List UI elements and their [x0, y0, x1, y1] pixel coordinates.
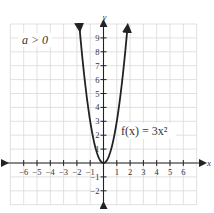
y-tick-label: −2: [90, 186, 99, 196]
y-tick-label: 8: [95, 47, 99, 57]
x-tick-label: 1: [115, 167, 119, 177]
axes: [5, 23, 203, 205]
y-tick-label: 9: [95, 33, 99, 43]
y-tick-label: 3: [95, 116, 99, 126]
function-label: f(x) = 3x²: [121, 124, 168, 138]
y-tick-label: 2: [95, 130, 99, 140]
y-tick-label: 6: [95, 75, 99, 85]
y-tick-label: 5: [95, 89, 99, 99]
parabola-chart: −6−5−4−3−2−1123456−2−1123456789 a > 0 f(…: [0, 0, 214, 213]
y-axis-label: y: [102, 12, 107, 22]
axis-ticks: −6−5−4−3−2−1123456−2−1123456789: [19, 33, 185, 196]
y-tick-label: 7: [95, 61, 99, 71]
y-tick-label: −1: [90, 172, 99, 182]
x-tick-label: −3: [59, 167, 68, 177]
x-tick-label: 3: [141, 167, 145, 177]
x-tick-label: 6: [181, 167, 185, 177]
x-tick-label: −4: [46, 167, 56, 177]
x-axis-label: x: [206, 158, 211, 168]
x-tick-label: −2: [72, 167, 81, 177]
x-tick-label: 2: [128, 167, 132, 177]
condition-label: a > 0: [22, 33, 48, 47]
x-tick-label: −6: [19, 167, 28, 177]
x-tick-label: 5: [168, 167, 172, 177]
x-tick-label: −5: [32, 167, 41, 177]
x-tick-label: 4: [155, 167, 160, 177]
